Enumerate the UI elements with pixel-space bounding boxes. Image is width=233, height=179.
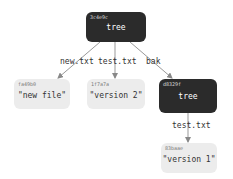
edge-label-test-txt: test.txt <box>98 57 137 66</box>
node-hash: 1f7a7a <box>91 81 109 87</box>
node-label: tree <box>86 23 146 32</box>
node-label: "new file" <box>14 91 70 100</box>
blob-node-new-file: fa49b0 "new file" <box>14 79 70 109</box>
node-hash: d8329f <box>163 81 181 87</box>
blob-node-version-2: 1f7a7a "version 2" <box>87 79 145 109</box>
node-hash: 3c4e9c <box>90 14 108 20</box>
node-hash: 83baae <box>165 145 183 151</box>
node-label: "version 1" <box>161 155 217 164</box>
edge-label-bak: bak <box>146 57 160 66</box>
git-tree-diagram: 3c4e9c tree fa49b0 "new file" 1f7a7a "ve… <box>0 0 233 179</box>
blob-node-version-1: 83baae "version 1" <box>161 143 217 173</box>
node-label: "version 2" <box>87 91 145 100</box>
edge-label-bak-test-txt: test.txt <box>172 121 211 130</box>
tree-node-root: 3c4e9c tree <box>86 12 146 42</box>
tree-node-bak: d8329f tree <box>159 79 217 113</box>
node-hash: fa49b0 <box>18 81 36 87</box>
node-label: tree <box>159 92 217 101</box>
edge-label-new-txt: new.txt <box>60 57 94 66</box>
